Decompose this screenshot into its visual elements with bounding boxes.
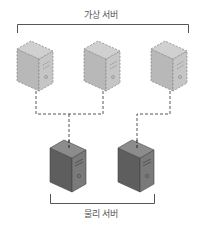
physical-server-icon	[50, 140, 86, 192]
virtual-server-icon	[17, 41, 53, 91]
physical-server-icon	[118, 140, 154, 192]
server-diagram	[0, 0, 202, 229]
bottom-bracket	[51, 194, 155, 204]
top-bracket	[18, 25, 189, 34]
virtual-server-icon	[84, 41, 120, 91]
dashed-connectors	[36, 91, 170, 148]
virtual-server-icon	[151, 41, 187, 91]
